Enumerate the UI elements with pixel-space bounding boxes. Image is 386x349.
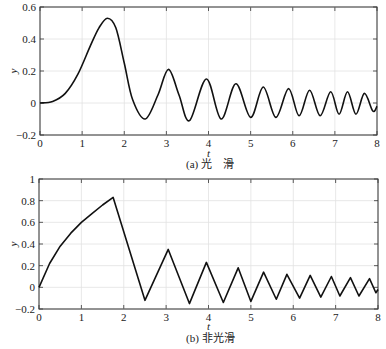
y-tick-label: 0.6 [22, 1, 36, 13]
y-tick-label: 0.4 [22, 33, 36, 45]
x-tick-label: 2 [121, 311, 127, 323]
y-tick-label: 0.4 [21, 238, 35, 250]
y-tick-label: 1 [30, 173, 36, 185]
y-tick-label: 0.8 [21, 195, 35, 207]
chart-figure: 012345678−0.200.20.40.6yt(a) 光 滑01234567… [0, 0, 386, 349]
y-axis-label: y [7, 241, 19, 247]
y-tick-label: 0.2 [22, 65, 36, 77]
x-tick-label: 2 [122, 137, 128, 149]
x-tick-label: 0 [37, 137, 43, 149]
x-tick-label: 1 [79, 311, 85, 323]
y-axis-label: y [7, 68, 19, 74]
x-tick-label: 8 [375, 311, 381, 323]
x-tick-label: 1 [79, 137, 85, 149]
x-tick-label: 3 [163, 311, 169, 323]
x-tick-label: 6 [290, 137, 296, 149]
x-tick-label: 0 [36, 311, 42, 323]
y-tick-label: 0 [31, 97, 37, 109]
y-tick-label: −0.2 [15, 303, 35, 315]
y-tick-label: 0.6 [21, 216, 35, 228]
subplot-caption: (a) 光 滑 [186, 157, 234, 171]
x-tick-label: 6 [291, 311, 297, 323]
x-tick-label: 7 [332, 137, 338, 149]
y-tick-label: 0.2 [21, 260, 35, 272]
y-tick-label: −0.2 [16, 129, 36, 141]
subplot-caption: (b) 非光滑 [186, 331, 235, 345]
x-tick-label: 5 [248, 137, 254, 149]
x-tick-label: 3 [164, 137, 170, 149]
x-tick-label: 5 [248, 311, 254, 323]
x-tick-label: 8 [374, 137, 380, 149]
y-tick-label: 0 [30, 281, 36, 293]
x-tick-label: 7 [333, 311, 339, 323]
